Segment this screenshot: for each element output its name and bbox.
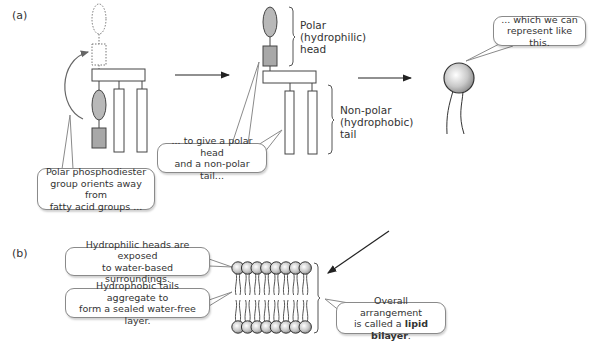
lipid-tail-top	[293, 273, 294, 295]
ghost-ellipse	[92, 4, 106, 34]
polar-square	[263, 46, 277, 66]
lipid-tail-top	[235, 273, 236, 295]
callout-represent: ... which we can represent like this.	[493, 16, 586, 46]
lipid-tail-top	[249, 273, 250, 295]
lipid-tail-top	[278, 273, 279, 295]
callout-orient: Polar phosphodiester group orients away …	[37, 168, 155, 210]
lipid-tail-bottom	[293, 300, 294, 322]
lipid-tail-top	[307, 273, 308, 295]
lipid-tail-bottom	[235, 300, 236, 322]
lipid-tail-bottom	[264, 300, 265, 322]
lipid-tail-top	[287, 273, 288, 295]
fatty-acid-tail	[308, 91, 317, 154]
polar-ellipse	[263, 7, 277, 37]
lipid-tail-top	[264, 273, 265, 295]
lipid-tail-top	[239, 273, 240, 295]
ghost-square	[92, 44, 106, 65]
lipid-tail-top	[297, 273, 298, 295]
fatty-acid-tail	[137, 89, 147, 152]
fatty-acid-tail	[114, 89, 124, 152]
lipid-tail-bottom	[268, 300, 269, 322]
lipid-tail-bottom	[239, 300, 240, 322]
lipid-tail-top	[274, 273, 275, 295]
molecule-original	[65, 4, 147, 152]
polar-head-label: Polar (hydrophilic) head	[300, 19, 366, 55]
lipid-tail-bottom	[259, 300, 260, 322]
polar-ellipse	[92, 90, 106, 120]
arrow-diagonal	[328, 231, 389, 273]
head-brace	[289, 7, 295, 66]
lipid-tail-top	[245, 273, 246, 295]
lipid-tail-bottom	[274, 300, 275, 322]
lipid-bilayer	[232, 262, 312, 333]
lipid-head-bottom	[299, 321, 311, 333]
callout-tails: Hydrophobic tails aggregate to form a se…	[65, 288, 210, 318]
lipid-tail-bottom	[297, 300, 298, 322]
lipid-tail-top	[259, 273, 260, 295]
lipid-tail-bottom	[283, 300, 284, 322]
lipid-head-sphere	[444, 63, 474, 93]
callout-heads: Hydrophilic heads are exposed to water-b…	[65, 247, 210, 276]
lipid-tail-bottom	[245, 300, 246, 322]
lipid-tail-bottom	[278, 300, 279, 322]
lipid-tail-top	[283, 273, 284, 295]
lipid-tail-top	[303, 273, 304, 295]
glycerol-backbone	[263, 71, 316, 83]
lipid-tail-top	[268, 273, 269, 295]
glycerol-backbone	[92, 69, 145, 81]
lipid-tail-bottom	[255, 300, 256, 322]
fatty-acid-tail	[285, 91, 294, 154]
lipid-head-top	[299, 262, 311, 274]
lipid-tail-bottom	[307, 300, 308, 322]
lipid-tail-top	[255, 273, 256, 295]
lipid-tail-bottom	[287, 300, 288, 322]
panel-label-b: (b)	[12, 247, 28, 260]
bilayer-brace	[314, 263, 320, 333]
rotation-arrow	[65, 52, 88, 119]
lipid-tail-bottom	[303, 300, 304, 322]
polar-square	[92, 128, 106, 148]
simplified-lipid	[444, 63, 474, 134]
callout-give: ... to give a polar head and a non-polar…	[157, 143, 267, 173]
callout-bilayer: Overall arrangement is called a lipid bi…	[336, 302, 446, 334]
panel-label-a: (a)	[12, 9, 27, 22]
tail-brace	[328, 85, 334, 154]
nonpolar-tail-label: Non-polar (hydrophobic) tail	[340, 104, 413, 140]
lipid-tail-bottom	[249, 300, 250, 322]
